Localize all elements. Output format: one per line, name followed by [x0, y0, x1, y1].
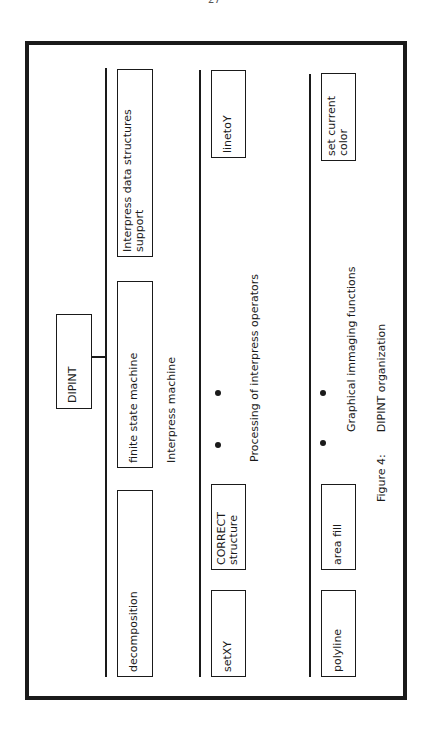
- ellipsis-dot: [320, 390, 326, 396]
- box-interpress-data-structures: Interpress data structures support: [117, 69, 153, 257]
- ellipsis-dot: [215, 390, 221, 396]
- box-label: polyline: [332, 629, 344, 672]
- page-number: 27: [208, 0, 221, 5]
- box-label: linetoY: [222, 115, 234, 153]
- figure-number: Figure 4:: [375, 454, 388, 502]
- box-linetoY: linetoY: [211, 70, 246, 158]
- ellipsis-dot: [215, 442, 221, 448]
- interpress-machine-bracket: [105, 68, 107, 677]
- group-label-interpress-machine: Interpress machine: [166, 357, 178, 463]
- box-correct-structure: CORRECT structure: [211, 484, 246, 570]
- box-label: finite state machine: [128, 353, 140, 463]
- processing-bracket: [199, 70, 201, 677]
- figure-caption: Figure 4:DIPINT organization: [376, 324, 388, 502]
- box-label-line2: color: [338, 96, 350, 156]
- root-connector: [91, 356, 105, 358]
- box-set-current-color: set current color: [321, 73, 356, 161]
- box-setXY: setXY: [211, 590, 246, 677]
- ellipsis-dot: [320, 440, 326, 446]
- group-label-processing: Processing of interpress operators: [249, 274, 261, 462]
- dipint-root-box: DIPINT: [56, 314, 92, 409]
- box-label-line2: support: [134, 109, 146, 252]
- box-finite-state-machine: finite state machine: [117, 281, 153, 468]
- figure-title: DIPINT organization: [375, 324, 388, 432]
- box-label: area fill: [332, 524, 344, 565]
- box-label-line2: structure: [228, 512, 240, 565]
- dipint-root-label: DIPINT: [67, 366, 79, 403]
- box-polyline: polyline: [321, 590, 356, 677]
- box-label: decomposition: [128, 591, 140, 672]
- group-label-graphical: Graphical immaging functions: [346, 266, 358, 432]
- box-label: setXY: [222, 641, 234, 672]
- box-decomposition: decomposition: [117, 490, 153, 677]
- graphical-bracket: [309, 74, 311, 677]
- box-area-fill: area fill: [321, 484, 356, 570]
